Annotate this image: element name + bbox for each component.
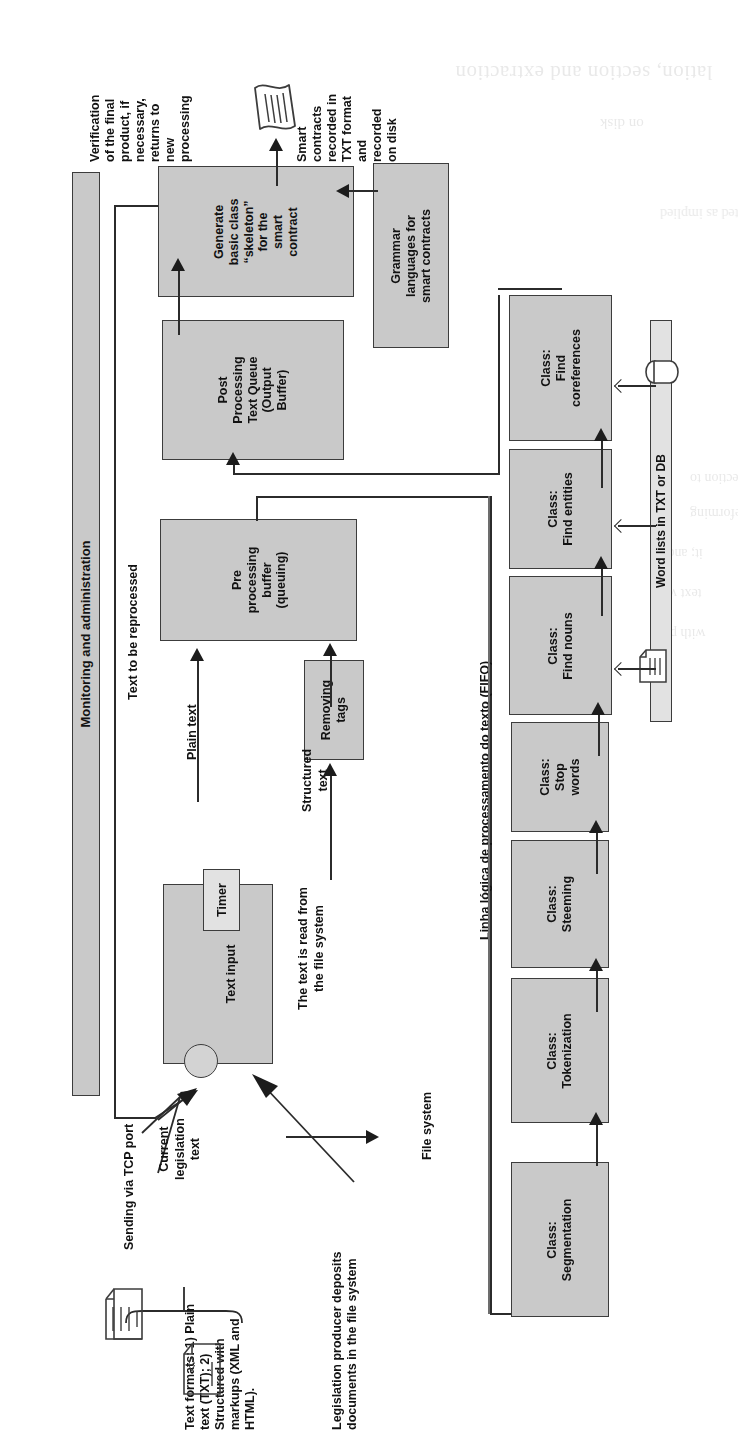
box-class-stop-words-label: Class: Stop words: [538, 758, 582, 796]
sc-out-5: and: [355, 140, 369, 162]
box-class-find-entities-label: Class: Find entities: [546, 472, 576, 546]
sc-out-6: recorded: [370, 109, 384, 163]
box-pre-processing-buffer[interactable]: Pre processing buffer (queuing): [160, 519, 357, 641]
feedback-loop-vertical: [114, 205, 116, 1118]
arrow-filesystem-into-textinput: [236, 1060, 366, 1190]
line-prebuffer-to-fifo-h: [256, 496, 492, 498]
annotation-legislation-producer: Legislation producer deposits documents …: [330, 1252, 360, 1431]
line-grammar-to-generate: [348, 190, 378, 192]
box-class-segmentation-label: Class: Segmentation: [545, 1198, 575, 1281]
arrowhead-pipeline-to-postproc: [226, 452, 240, 465]
curleg-3: text: [188, 1138, 202, 1160]
box-class-find-coreferences[interactable]: Class: Find coreferences: [509, 295, 612, 441]
line-producer-to-filesystem: [286, 1136, 368, 1138]
box-removing-tags[interactable]: Removing tags: [304, 660, 364, 760]
xml-file-icon: <>: [182, 1340, 230, 1398]
box-grammar-languages-label: Grammar languages for smart contracts: [389, 209, 433, 303]
verification-line-6: new: [163, 138, 177, 162]
verification-line-4: necessary,: [133, 98, 147, 162]
sc-out-7: on disk: [385, 118, 399, 162]
sc-out-3: recorded in: [325, 94, 339, 162]
verification-line-5: returns to: [148, 104, 162, 162]
arrowhead-grammar-to-generate: [336, 184, 349, 198]
read-fs-2: the file system: [312, 905, 326, 992]
box-generate-class-skeleton[interactable]: Generate basic class “skeleton” for the …: [158, 166, 354, 297]
text-file-icon: [104, 1285, 152, 1343]
verification-line-1: Verification: [88, 95, 102, 162]
arrowhead-wordlist-to-findentities: [614, 519, 628, 533]
annotation-text-read-from-fs: The text is read from the file system: [296, 887, 327, 1010]
band-monitoring-and-administration: Monitoring and administration: [72, 172, 100, 1096]
band-fifo-rule: [488, 496, 490, 1314]
arrowhead-structured-to-removingtags: [323, 763, 337, 776]
box-class-tokenization[interactable]: Class: Tokenization: [511, 978, 609, 1123]
annotation-text-to-be-reprocessed: Text to be reprocessed: [126, 564, 141, 700]
box-class-stop-words[interactable]: Class: Stop words: [511, 722, 609, 832]
line-findentities-to-coreferences: [601, 440, 603, 488]
annotation-file-system: File system: [420, 1092, 435, 1160]
line-pipeline-to-postproc-v: [498, 295, 500, 475]
txtfmt-4: markups (XML and: [228, 1318, 242, 1430]
input-port-circle[interactable]: [184, 1044, 218, 1078]
line-steeming-to-stopwords: [596, 832, 598, 874]
arrowhead-producer-to-filesystem: [366, 1130, 379, 1144]
sc-out-4: TXT format: [340, 96, 354, 162]
sc-out-1: Smart: [295, 127, 309, 162]
curleg-2: legislation: [173, 1118, 187, 1180]
line-structured-to-removingtags: [330, 775, 332, 880]
arrowhead-generate-to-scroll: [269, 138, 283, 151]
sc-out-2: contracts: [310, 106, 324, 162]
box-class-find-nouns[interactable]: Class: Find nouns: [509, 576, 612, 715]
arrowhead-steeming-to-stopwords: [589, 820, 603, 833]
arrowhead-wordlist-to-findnouns: [614, 662, 628, 676]
box-pre-processing-label: Pre processing buffer (queuing): [229, 547, 288, 614]
txtfmt-5: HTML).: [243, 1388, 257, 1430]
box-removing-tags-label: Removing tags: [319, 680, 349, 740]
line-findnouns-to-findentities: [601, 568, 603, 616]
box-class-find-nouns-label: Class: Find nouns: [546, 612, 576, 679]
feedback-loop-top: [114, 205, 160, 207]
annotation-structured-text: Structured text: [300, 749, 331, 812]
box-text-input-label: Text input: [224, 945, 239, 1004]
arrowhead-tokenization-to-steeming: [589, 958, 603, 971]
arrowhead-segmentation-to-tokenization: [589, 1112, 603, 1125]
line-segmentation-to-tokenization: [596, 1124, 598, 1166]
band-word-lists-label: Word lists in TXT or DB: [654, 454, 668, 588]
band-fifo-label: Linha lógica de processamento do texto (…: [478, 661, 493, 940]
box-post-processing-text-queue[interactable]: Post Processing Text Queue (Output Buffe…: [162, 320, 344, 460]
box-timer-label: Timer: [214, 883, 229, 917]
svg-text:<>: <>: [184, 1357, 199, 1372]
box-class-segmentation[interactable]: Class: Segmentation: [511, 1162, 609, 1317]
line-generate-to-scroll: [276, 150, 278, 186]
structured-text-1: Structured: [300, 749, 314, 812]
arrowhead-stopwords-to-findnouns: [591, 702, 605, 715]
annotation-verification: Verification of the final product, if ne…: [88, 12, 193, 162]
line-textinput-to-prebuffer: [197, 660, 199, 802]
verification-line-3: product, if: [118, 101, 132, 162]
annotation-smart-contracts-output: Smart contracts recorded in TXT format a…: [295, 94, 400, 162]
arrowhead-removingtags-to-prebuffer: [323, 643, 337, 656]
annotation-current-legislation-text: Current legislation text: [157, 1118, 204, 1180]
text-file-icon-wordlist: [638, 648, 672, 686]
box-class-steeming[interactable]: Class: Steeming: [511, 840, 609, 968]
bracket-fifo-top: [498, 288, 562, 290]
arrowhead-findnouns-to-findentities: [594, 556, 608, 569]
line-tokenization-to-steeming: [596, 970, 598, 1012]
box-class-steeming-label: Class: Steeming: [545, 876, 575, 932]
band-monitoring-label: Monitoring and administration: [78, 540, 93, 727]
arrowhead-postproc-to-generate: [171, 258, 185, 271]
box-class-find-entities[interactable]: Class: Find entities: [509, 449, 612, 569]
verification-line-2: of the final: [103, 99, 117, 162]
arrowhead-findentities-to-coreferences: [594, 428, 608, 441]
box-timer[interactable]: Timer: [203, 869, 240, 931]
verification-line-7: processing: [178, 95, 192, 162]
box-post-processing-label: Post Processing Text Queue (Output Buffe…: [216, 356, 290, 423]
box-generate-class-skeleton-label: Generate basic class “skeleton” for the …: [212, 198, 301, 265]
curleg-1: Current: [157, 1127, 171, 1172]
line-postproc-to-generate: [178, 270, 180, 335]
arrowhead-textinput-to-prebuffer: [190, 648, 204, 661]
arrowhead-wordlist-to-coreferences: [614, 379, 628, 393]
box-grammar-languages[interactable]: Grammar languages for smart contracts: [373, 163, 449, 348]
line-removingtags-to-prebuffer: [330, 655, 332, 707]
legprod-1: Legislation producer deposits: [330, 1252, 344, 1431]
